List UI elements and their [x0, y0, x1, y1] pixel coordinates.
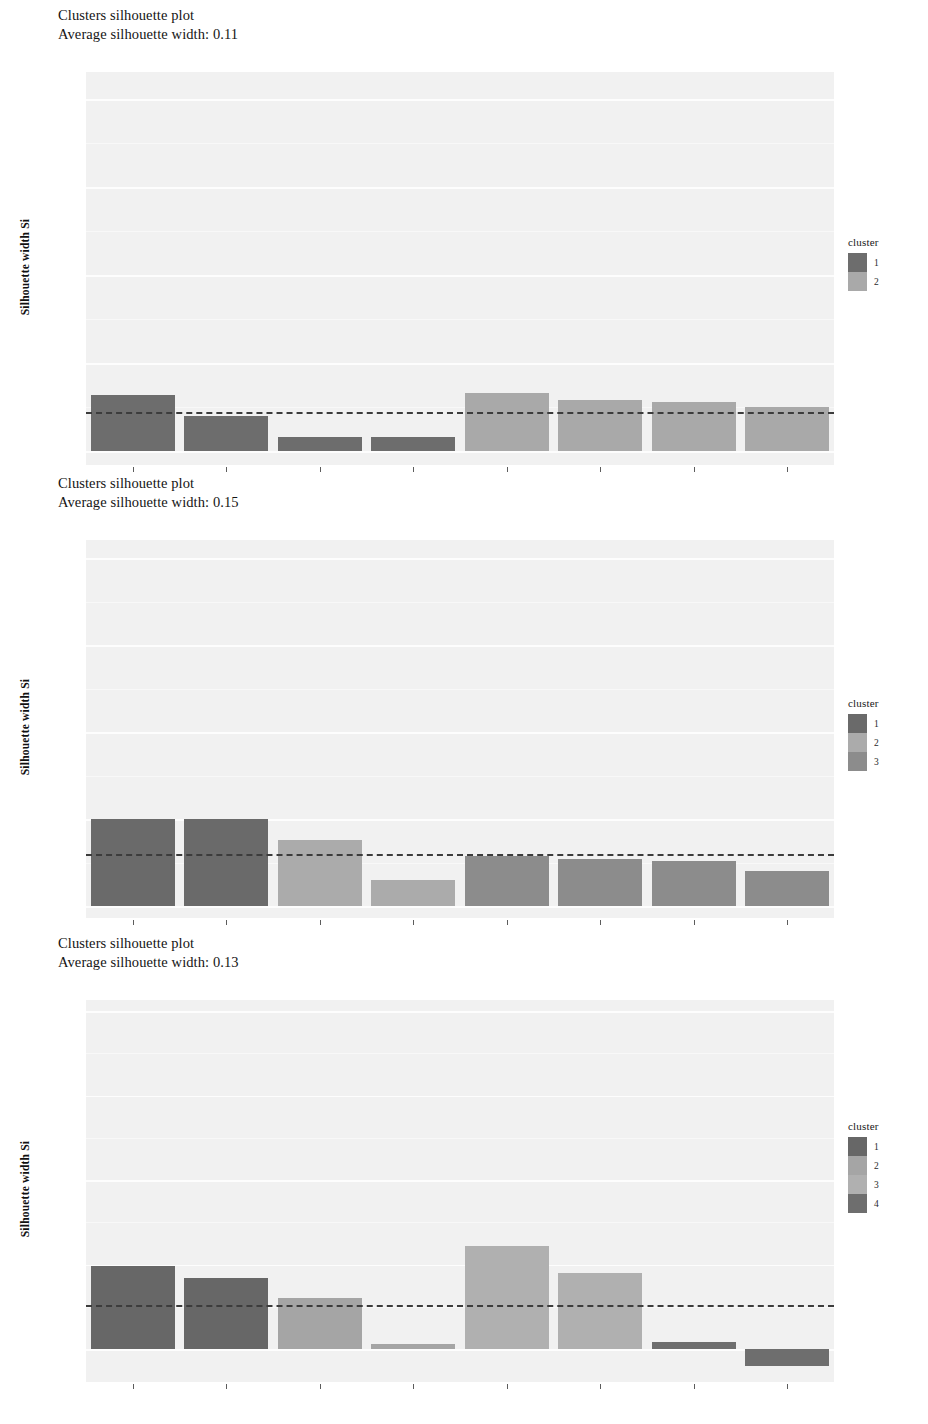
silhouette-plot-3: Clusters silhouette plotAverage silhouet…: [0, 947, 928, 1424]
gridline-major: [86, 1349, 834, 1351]
x-axis-tick-mark: [694, 1384, 695, 1389]
x-axis-tick-mark: [226, 467, 227, 472]
bar: [652, 402, 736, 451]
legend-row[interactable]: 3: [848, 1175, 879, 1194]
x-axis-tick-mark: [694, 920, 695, 925]
bar: [745, 871, 829, 906]
x-axis-tick-mark: [600, 920, 601, 925]
bar: [558, 859, 642, 906]
legend-color-swatch: [848, 253, 867, 272]
average-silhouette-line: [86, 854, 834, 856]
bar: [465, 856, 549, 906]
gridline-major: [86, 451, 834, 453]
gridline-minor: [86, 231, 834, 232]
y-axis-title: Silhouette width Si: [19, 1109, 31, 1269]
legend-row[interactable]: 1: [848, 714, 879, 733]
y-axis: 1.000.750.500.250.00: [0, 947, 86, 1382]
gridline-minor: [86, 689, 834, 690]
legend-label: 4: [874, 1199, 879, 1209]
bar: [465, 393, 549, 451]
bar: [184, 1278, 268, 1349]
gridline-minor: [86, 1138, 834, 1139]
bar: [184, 819, 268, 906]
legend-items: 12: [848, 253, 879, 291]
gridline-major: [86, 558, 834, 560]
x-axis-tick-mark: [507, 467, 508, 472]
legend-row[interactable]: 2: [848, 272, 879, 291]
gridline-major: [86, 906, 834, 908]
x-axis-tick-mark: [320, 467, 321, 472]
bar: [184, 416, 268, 451]
gridline-major: [86, 99, 834, 101]
gridline-minor: [86, 602, 834, 603]
bar: [91, 1266, 175, 1349]
legend-label: 3: [874, 1180, 879, 1190]
x-axis-tick-mark: [787, 1384, 788, 1389]
x-axis-tick-mark: [133, 467, 134, 472]
gridline-minor: [86, 776, 834, 777]
legend-row[interactable]: 2: [848, 733, 879, 752]
legend-title: cluster: [848, 1120, 879, 1132]
gridline-minor: [86, 1222, 834, 1223]
legend-color-swatch: [848, 752, 867, 771]
x-axis-tick-mark: [600, 467, 601, 472]
bar: [558, 400, 642, 451]
average-silhouette-line: [86, 412, 834, 414]
legend-row[interactable]: 2: [848, 1156, 879, 1175]
legend-color-swatch: [848, 1156, 867, 1175]
gridline-major: [86, 275, 834, 277]
legend: cluster123: [848, 697, 879, 771]
gridline-major: [86, 1265, 834, 1267]
silhouette-plot-1: Clusters silhouette plotAverage silhouet…: [0, 0, 928, 492]
legend-title: cluster: [848, 236, 879, 248]
bar: [465, 1246, 549, 1349]
gridline-minor: [86, 1053, 834, 1054]
legend-label: 1: [874, 719, 879, 729]
legend-color-swatch: [848, 714, 867, 733]
bar: [652, 861, 736, 906]
legend-color-swatch: [848, 1137, 867, 1156]
legend-row[interactable]: 1: [848, 253, 879, 272]
bar: [371, 880, 455, 906]
legend-row[interactable]: 1: [848, 1137, 879, 1156]
bar: [652, 1342, 736, 1349]
x-axis-tick-mark: [694, 467, 695, 472]
legend-row[interactable]: 4: [848, 1194, 879, 1213]
gridline-minor: [86, 143, 834, 144]
legend-label: 1: [874, 258, 879, 268]
gridline-major: [86, 1180, 834, 1182]
legend-label: 2: [874, 277, 879, 287]
x-axis-tick-mark: [320, 1384, 321, 1389]
x-axis-tick-mark: [600, 1384, 601, 1389]
legend-label: 2: [874, 1161, 879, 1171]
x-axis-tick-mark: [413, 467, 414, 472]
gridline-major: [86, 1096, 834, 1098]
x-axis-tick-mark: [226, 1384, 227, 1389]
gridline-minor: [86, 319, 834, 320]
y-axis-title: Silhouette width Si: [19, 187, 31, 347]
legend-items: 1234: [848, 1137, 879, 1213]
legend: cluster12: [848, 236, 879, 291]
x-axis-tick-mark: [413, 920, 414, 925]
y-axis-title: Silhouette width Si: [19, 647, 31, 807]
x-axis-tick-mark: [787, 920, 788, 925]
bar: [278, 840, 362, 906]
bar: [278, 437, 362, 451]
y-axis: 1.000.750.500.250.00: [0, 0, 86, 465]
gridline-major: [86, 645, 834, 647]
x-axis-tick-mark: [133, 1384, 134, 1389]
legend-items: 123: [848, 714, 879, 771]
bar: [745, 1349, 829, 1366]
bar: [91, 395, 175, 451]
gridline-major: [86, 1011, 834, 1013]
gridline-major: [86, 187, 834, 189]
plot-title: Clusters silhouette plot: [58, 474, 239, 493]
bar: [371, 437, 455, 451]
gridline-major: [86, 363, 834, 365]
legend-color-swatch: [848, 1175, 867, 1194]
legend-title: cluster: [848, 697, 879, 709]
legend-row[interactable]: 3: [848, 752, 879, 771]
gridline-major: [86, 732, 834, 734]
x-axis-tick-mark: [226, 920, 227, 925]
legend-label: 2: [874, 738, 879, 748]
